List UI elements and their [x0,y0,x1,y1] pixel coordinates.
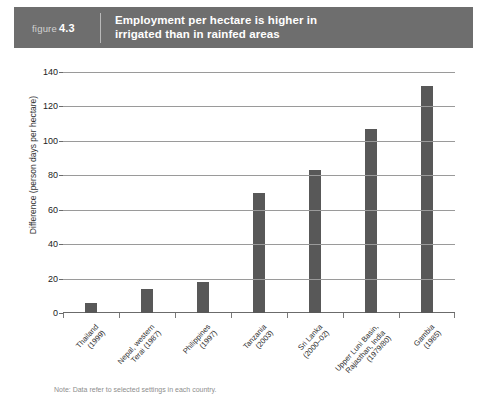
gridline [63,175,455,176]
y-tick-mark [59,141,63,142]
y-tick-label: 80 [48,170,58,180]
y-tick-label: 100 [43,136,58,146]
gridline [63,244,455,245]
chart-note: Note: Data refer to selected settings in… [54,386,217,393]
y-tick-label: 140 [43,67,58,77]
y-tick-mark [59,210,63,211]
figure-header-banner: figure4.3 Employment per hectare is high… [14,7,473,48]
figure-number: 4.3 [59,22,75,34]
y-tick-mark [59,106,63,107]
x-tick-mark [399,313,400,318]
gridline [63,106,455,107]
bar[interactable] [365,129,377,313]
y-tick-mark [59,72,63,73]
bar[interactable] [141,289,153,313]
figure-word: figure [32,23,57,34]
figure-title: Employment per hectare is higher in irri… [115,14,317,41]
y-tick-label: 120 [43,101,58,111]
bar-slot [119,72,175,313]
gridline [63,72,455,73]
x-tick-mark [63,313,64,318]
y-tick-label: 40 [48,239,58,249]
bar-series [63,72,455,313]
bar-slot [175,72,231,313]
bar[interactable] [85,303,97,313]
bar-slot [343,72,399,313]
y-tick-label: 20 [48,274,58,284]
x-tick-mark [231,313,232,318]
gridline [63,210,455,211]
bar-slot [63,72,119,313]
bar-slot [399,72,455,313]
y-tick-mark [59,313,63,314]
bar-slot [231,72,287,313]
y-tick-label: 60 [48,205,58,215]
y-tick-mark [59,175,63,176]
y-tick-mark [59,244,63,245]
x-tick-mark [175,313,176,318]
bar-slot [287,72,343,313]
x-axis-labels: Thailand (1999)Nepal, western Terai (198… [63,320,455,380]
bar-chart: Difference (person days per hectare) 020… [0,48,483,380]
x-tick-mark [343,313,344,318]
y-tick-mark [59,279,63,280]
figure-title-line-1: Employment per hectare is higher in [115,14,317,28]
figure-tag: figure4.3 [14,22,100,34]
header-divider [100,13,101,43]
y-tick-label: 0 [53,308,58,318]
bar[interactable] [197,282,209,313]
plot-area: 020406080100120140 [63,72,455,313]
gridline [63,279,455,280]
figure-title-line-2: irrigated than in rainfed areas [115,28,317,42]
bar[interactable] [309,170,321,313]
y-axis-title: Difference (person days per hectare) [28,70,38,260]
gridline [63,141,455,142]
x-tick-mark [119,313,120,318]
x-tick-mark [287,313,288,318]
x-tick-mark [454,313,455,318]
